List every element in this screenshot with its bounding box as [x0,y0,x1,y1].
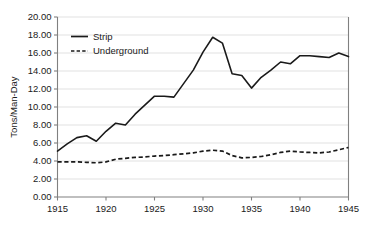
chart-background [0,0,373,228]
y-tick-label: 14.00 [28,65,52,76]
y-tick-label: 18.00 [28,29,52,40]
y-tick-label: 4.00 [33,155,52,166]
y-tick-label: 0.00 [33,191,52,202]
x-tick-label: 1945 [338,203,359,214]
x-tick-label: 1925 [144,203,165,214]
x-tick-label: 1915 [47,203,68,214]
line-chart: 0.002.004.006.008.0010.0012.0014.0016.00… [0,0,373,228]
y-tick-label: 16.00 [28,47,52,58]
legend-label-underground: Underground [93,45,148,56]
y-tick-label: 8.00 [33,119,52,130]
y-tick-label: 10.00 [28,101,52,112]
y-tick-label: 20.00 [28,11,52,22]
y-tick-label: 12.00 [28,83,52,94]
x-tick-label: 1920 [95,203,116,214]
y-tick-label: 6.00 [33,137,52,148]
y-axis-title: Tons/Man-Day [8,76,19,137]
x-tick-label: 1940 [289,203,310,214]
x-tick-label: 1935 [241,203,262,214]
legend-label-strip: Strip [93,31,113,42]
chart-canvas: 0.002.004.006.008.0010.0012.0014.0016.00… [0,0,373,228]
y-tick-label: 2.00 [33,173,52,184]
x-tick-label: 1930 [192,203,213,214]
